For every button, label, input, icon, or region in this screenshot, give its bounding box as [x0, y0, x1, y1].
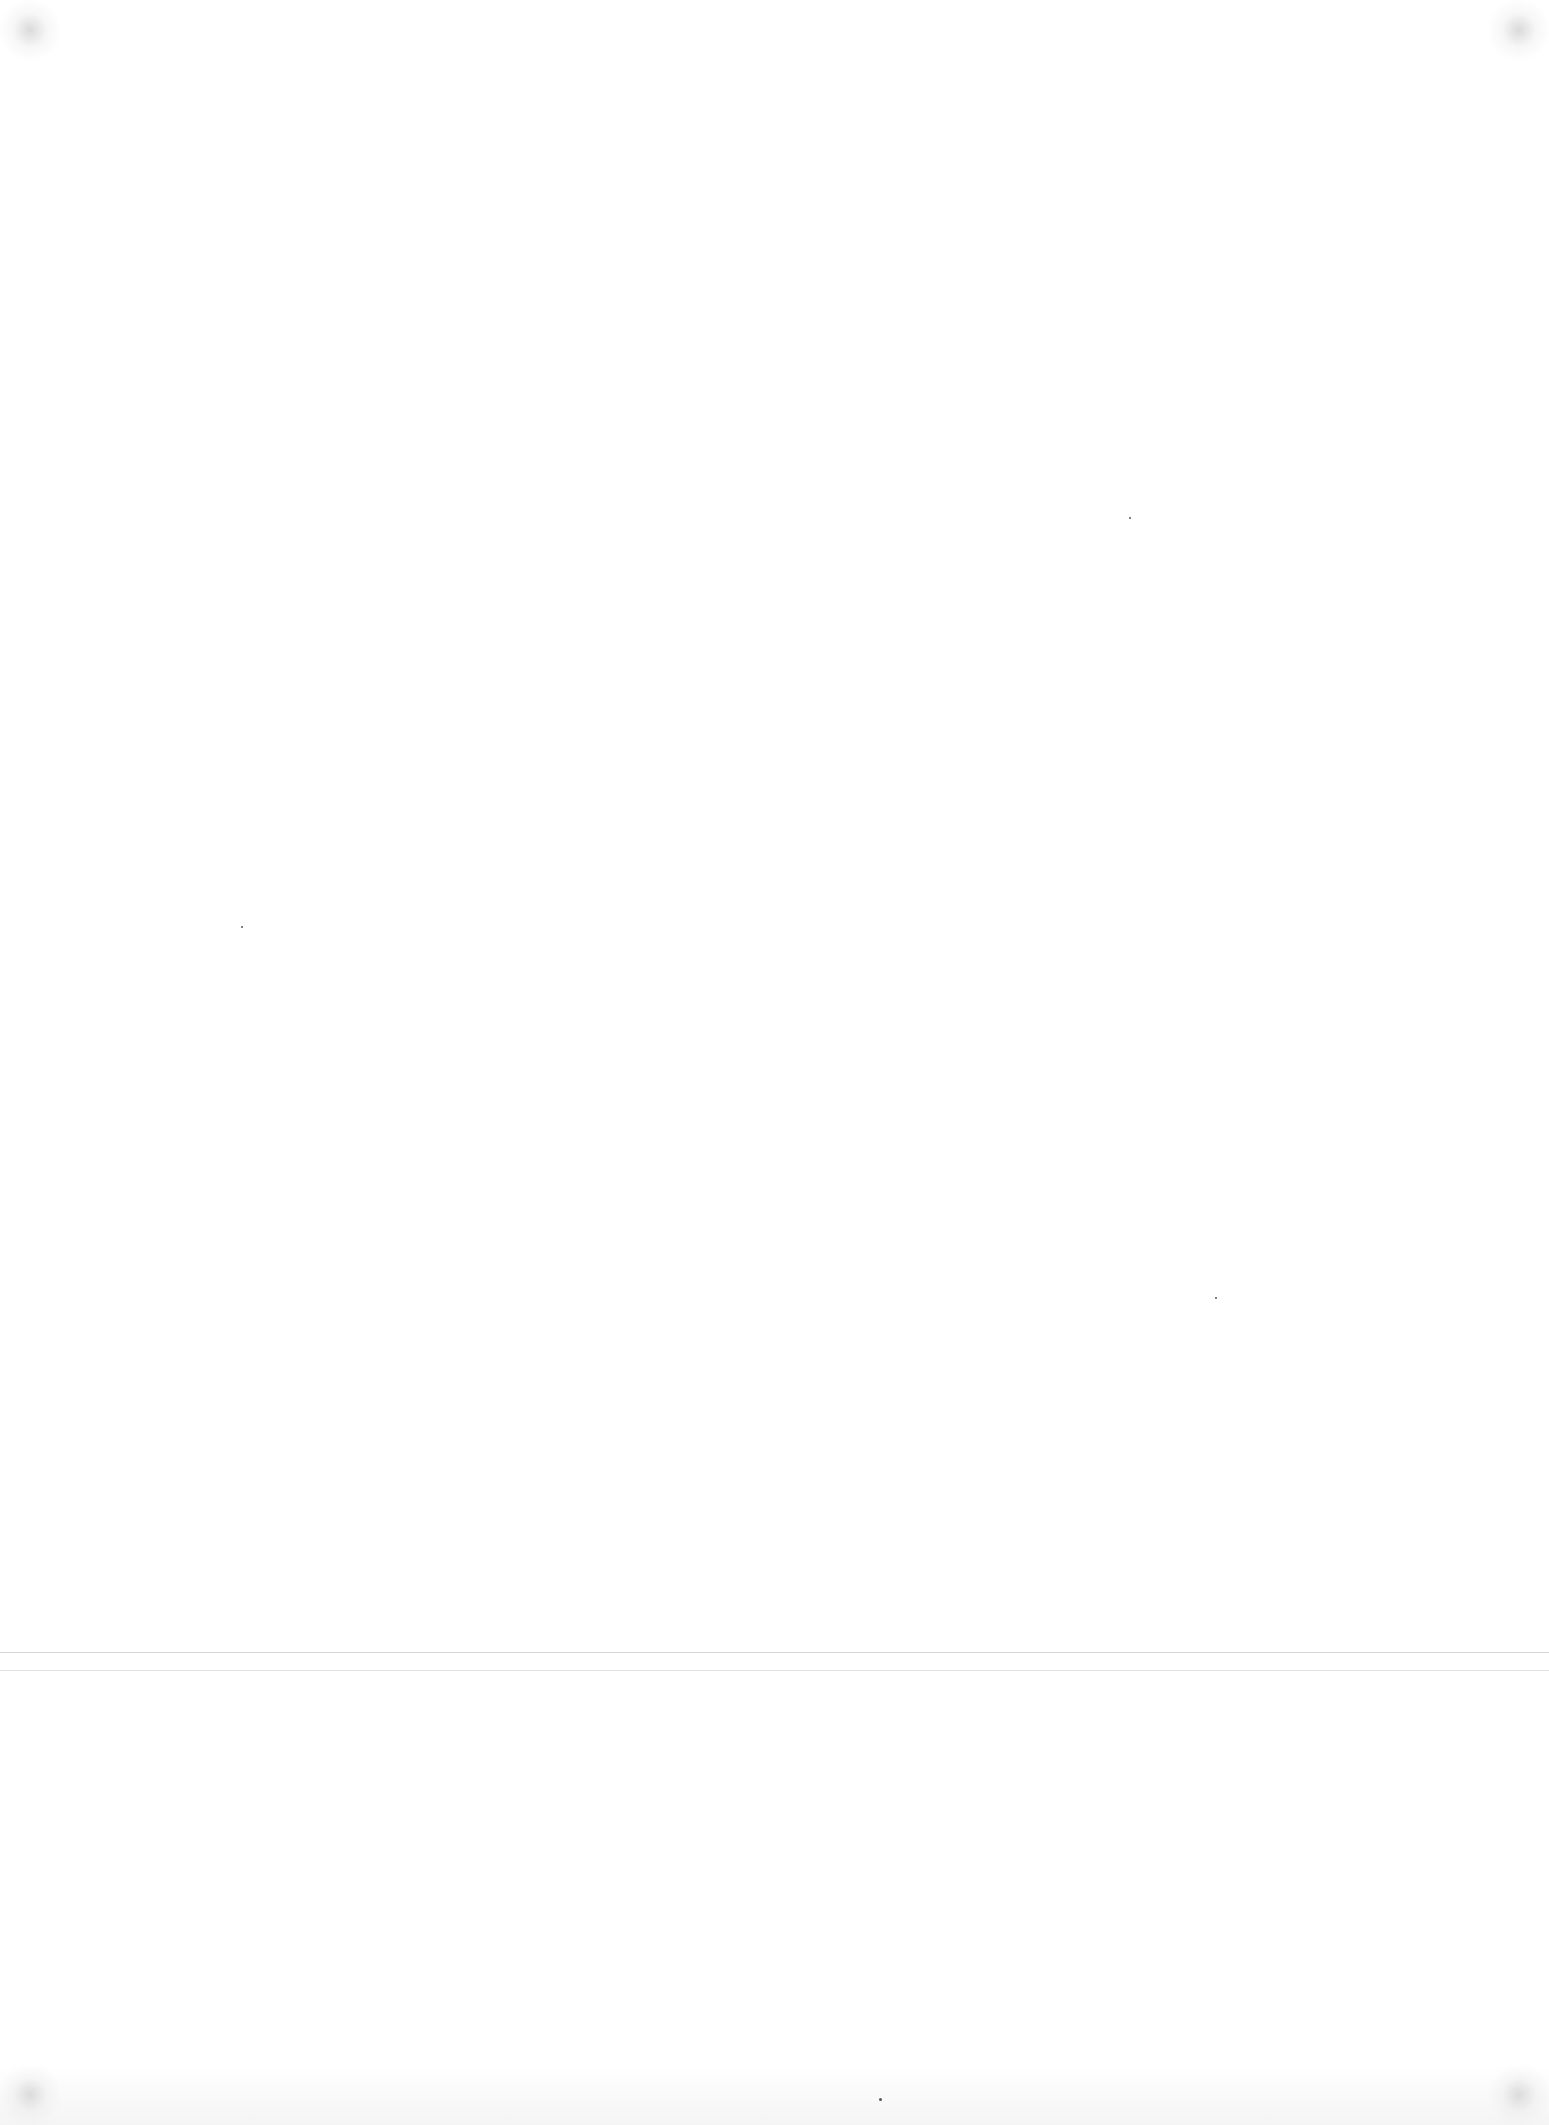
speck — [1215, 1297, 1217, 1299]
blank-page — [0, 0, 1549, 2125]
speck — [879, 2098, 882, 2101]
fold-line — [0, 1652, 1549, 1653]
speck — [241, 926, 243, 928]
speck — [1129, 517, 1131, 519]
scan-noise-top-left — [0, 0, 60, 60]
scan-noise-top-right — [1489, 0, 1549, 60]
fold-line-shadow — [0, 1670, 1549, 1671]
scan-noise-bottom — [0, 2065, 1549, 2125]
